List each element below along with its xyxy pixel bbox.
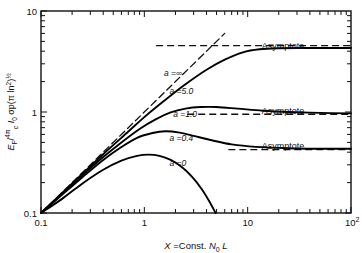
curve-label: a =5.0 [169,86,193,96]
x-tick-label: 10 [242,217,253,228]
y-axis-title-num: 4π [4,129,11,138]
curve-label: a =0 [169,158,186,168]
y-tick-label: 1 [32,107,37,118]
x-tick-label: 0.1 [34,217,47,228]
y-axis-title-half: ½ [5,73,12,79]
figure-root: a =∞a =5.0a =1.0a =0.4a =0AsymptoteAsymp… [0,0,362,253]
asymptote-label: Asymptote [262,41,305,51]
curve-label: a =1.0 [173,109,197,119]
curve-label: a =∞ [164,68,182,78]
y-tick-label: 0.1 [24,208,37,219]
y-axis-title-sigma: σp(π ln [6,85,16,117]
x-tick-label: 1 [142,217,147,228]
x-axis-title-l: L [220,240,228,251]
chart-canvas: a =∞a =5.0a =1.0a =0.4a =0AsymptoteAsymp… [0,0,362,253]
asymptote-label: Asymptote [262,106,305,116]
asymptote-label: Asymptote [262,141,305,151]
y-tick-label: 10 [26,6,37,17]
x-tick-exponent: 2 [356,216,360,223]
chart-background [0,0,362,253]
x-axis-title-var: X [163,240,173,251]
curve-label: a =0.4 [169,133,193,143]
